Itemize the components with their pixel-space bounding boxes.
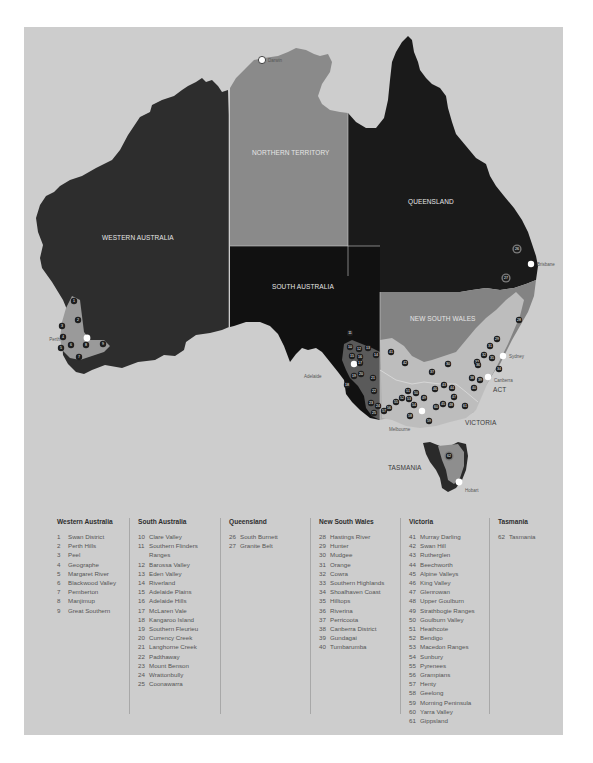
region-marker[interactable]: 28 [516, 317, 522, 323]
legend-item-name: Rutherglen [420, 550, 450, 559]
region-marker[interactable]: 43 [441, 382, 447, 388]
region-marker[interactable]: 26 [512, 244, 521, 253]
legend-item-number: 18 [138, 615, 149, 624]
region-marker[interactable]: 9 [100, 341, 106, 347]
region-marker[interactable]: 20 [358, 371, 364, 377]
region-marker[interactable]: 2 [75, 317, 81, 323]
region-marker[interactable]: 61 [462, 403, 468, 409]
region-marker[interactable]: 32 [481, 352, 487, 358]
svg-text:4: 4 [62, 335, 64, 339]
region-marker[interactable]: 57 [381, 408, 387, 414]
svg-text:42: 42 [403, 361, 407, 365]
region-marker[interactable]: 37 [429, 369, 435, 375]
region-marker[interactable]: 19 [351, 373, 357, 379]
region-marker[interactable]: 1 [71, 298, 77, 304]
svg-text:12: 12 [357, 347, 361, 351]
state-south-australia[interactable] [230, 246, 380, 420]
region-marker[interactable]: 48 [448, 402, 454, 408]
svg-text:2: 2 [77, 318, 79, 322]
svg-text:18: 18 [345, 383, 349, 387]
region-marker[interactable]: 41 [388, 349, 394, 355]
city-hobart[interactable]: Hobart [456, 479, 480, 493]
svg-text:Darwin: Darwin [268, 58, 283, 63]
region-marker[interactable]: 25 [371, 410, 377, 416]
legend-item-name: Hilltops [330, 596, 350, 605]
region-marker[interactable]: 46 [432, 386, 438, 392]
region-marker[interactable]: 59 [426, 418, 432, 424]
region-marker[interactable]: 35 [489, 355, 495, 361]
legend-item-name: Coonawarra [149, 679, 183, 688]
legend-item-number [138, 550, 149, 559]
region-marker[interactable]: 62 [444, 451, 453, 460]
region-marker[interactable]: 54 [411, 402, 417, 408]
legend-item-number: 14 [138, 578, 149, 587]
svg-text:14: 14 [374, 353, 378, 357]
city-brisbane[interactable]: Brisbane [528, 261, 555, 267]
region-marker[interactable]: 11 [347, 330, 353, 336]
region-marker[interactable]: 14 [373, 352, 379, 358]
legend-item: 31Orange [319, 560, 384, 569]
region-marker[interactable]: 34 [496, 366, 502, 372]
region-marker[interactable]: 39 [477, 377, 483, 383]
region-marker[interactable]: 22 [371, 388, 377, 394]
region-marker[interactable]: 44 [449, 385, 455, 391]
region-marker[interactable]: 47 [451, 394, 457, 400]
legend-item-number: 10 [138, 532, 149, 541]
legend-item-name: Perricoota [330, 615, 358, 624]
region-marker[interactable]: 5 [58, 345, 64, 351]
region-marker[interactable]: 53 [406, 396, 412, 402]
region-marker[interactable]: 38 [469, 375, 475, 381]
legend-item-name: Southern Fleurieu [149, 624, 198, 633]
label-northern-territory: NORTHERN TERRITORY [252, 149, 330, 156]
region-marker[interactable]: 36 [475, 362, 481, 368]
state-northern-territory[interactable] [230, 48, 348, 246]
city-darwin[interactable]: Darwin [258, 56, 282, 63]
region-marker[interactable]: 3 [59, 323, 65, 329]
region-marker[interactable]: 7 [76, 354, 82, 360]
region-marker[interactable]: 49 [421, 395, 427, 401]
region-marker[interactable]: 58 [407, 413, 413, 419]
legend-item-number: 32 [319, 569, 330, 578]
region-marker[interactable]: 45 [440, 401, 446, 407]
region-marker[interactable]: 12 [356, 346, 362, 352]
svg-text:37: 37 [430, 370, 434, 374]
svg-text:40: 40 [472, 386, 476, 390]
region-marker[interactable]: 50 [413, 390, 419, 396]
region-marker[interactable]: 51 [405, 388, 411, 394]
legend-item-number: 36 [319, 606, 330, 615]
label-new-south-wales: NEW SOUTH WALES [410, 315, 476, 322]
region-marker[interactable]: 6 [68, 342, 74, 348]
region-marker[interactable]: 18 [344, 382, 350, 388]
legend-item-number: 37 [319, 615, 330, 624]
city-sydney[interactable]: Sydney [500, 353, 525, 359]
city-canberra[interactable]: Canberra [485, 374, 513, 383]
region-marker[interactable]: 52 [399, 395, 405, 401]
region-marker[interactable]: 16 [357, 354, 363, 360]
legend-item: 24Wrattonbully [138, 670, 198, 679]
region-marker[interactable]: 42 [402, 360, 408, 366]
svg-text:45: 45 [441, 402, 445, 406]
region-marker[interactable]: 23 [368, 400, 374, 406]
region-marker[interactable]: 31 [487, 343, 493, 349]
region-marker[interactable]: 21 [370, 375, 376, 381]
region-marker[interactable]: 13 [365, 345, 371, 351]
legend-item-name: Southern Highlands [330, 578, 384, 587]
region-marker[interactable]: 8 [83, 342, 89, 348]
region-marker[interactable]: 55 [393, 399, 399, 405]
region-marker[interactable]: 10 [347, 344, 353, 350]
legend-item-number: 17 [138, 606, 149, 615]
legend-item-number: 16 [138, 596, 149, 605]
legend-item: 3Peel [57, 550, 116, 559]
region-marker[interactable]: 24 [375, 403, 381, 409]
region-marker[interactable]: 17 [357, 360, 363, 366]
region-marker[interactable]: 30 [445, 361, 451, 367]
svg-text:17: 17 [358, 361, 362, 365]
svg-text:25: 25 [372, 411, 376, 415]
region-marker[interactable]: 60 [433, 404, 439, 410]
legend-item-number: 51 [409, 624, 420, 633]
region-marker[interactable]: 40 [471, 385, 477, 391]
region-marker[interactable]: 27 [501, 273, 510, 282]
region-marker[interactable]: 4 [60, 334, 66, 340]
region-marker[interactable]: 15 [349, 353, 355, 359]
region-marker[interactable]: 29 [494, 336, 500, 342]
